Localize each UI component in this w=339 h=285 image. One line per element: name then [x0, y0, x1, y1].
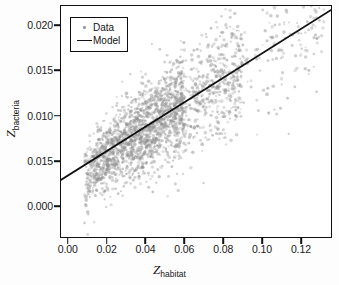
scatter-point [133, 186, 136, 189]
scatter-point [212, 56, 215, 59]
scatter-point [189, 94, 191, 96]
scatter-point [153, 111, 156, 114]
legend-entry-model[interactable]: Model [76, 34, 122, 47]
scatter-point [110, 163, 112, 165]
scatter-point [231, 56, 233, 58]
scatter-point [213, 64, 216, 67]
scatter-point [211, 110, 213, 112]
scatter-point [203, 105, 205, 107]
scatter-point [280, 77, 284, 81]
x-axis-tick-mark [67, 238, 69, 244]
scatter-point [214, 87, 217, 90]
scatter-point [121, 154, 123, 156]
scatter-point [141, 119, 145, 123]
scatter-point [105, 158, 108, 161]
scatter-point [193, 91, 195, 93]
scatter-point [164, 81, 168, 85]
scatter-point [322, 20, 325, 23]
scatter-point [197, 118, 199, 120]
scatter-point [166, 109, 168, 111]
chart-legend[interactable]: Data Model [70, 17, 128, 52]
scatter-point [142, 154, 145, 157]
scatter-point [101, 171, 104, 174]
scatter-point [195, 77, 199, 81]
scatter-point [283, 22, 285, 24]
scatter-point [259, 69, 261, 71]
scatter-point [234, 119, 236, 121]
scatter-point [235, 133, 239, 137]
scatter-point [156, 100, 158, 102]
scatter-point [115, 147, 117, 149]
scatter-point [174, 182, 177, 185]
scatter-point [161, 87, 163, 89]
scatter-point [293, 69, 297, 73]
scatter-point [122, 157, 125, 160]
scatter-point [147, 79, 151, 83]
scatter-point [93, 182, 95, 184]
scatter-point [147, 156, 149, 158]
scatter-point [165, 128, 168, 131]
scatter-point [102, 190, 105, 193]
scatter-point [111, 187, 114, 190]
scatter-point [103, 135, 106, 138]
scatter-point [266, 59, 269, 62]
y-axis-tick-mark [54, 24, 60, 26]
scatter-point [193, 78, 195, 80]
scatter-point [150, 153, 152, 155]
scatter-point [165, 141, 167, 143]
scatter-point [182, 107, 184, 109]
scatter-point [83, 222, 86, 225]
scatter-point [153, 145, 156, 148]
scatter-point [86, 210, 90, 214]
scatter-point [229, 138, 232, 141]
scatter-point [234, 100, 237, 103]
scatter-point [222, 57, 225, 60]
scatter-point [128, 169, 131, 172]
y-axis-title-variable: Z [3, 130, 18, 137]
scatter-point [165, 134, 167, 136]
scatter-point [103, 198, 105, 200]
scatter-point [173, 99, 176, 102]
scatter-point [178, 65, 181, 68]
scatter-point [224, 132, 226, 134]
scatter-point [197, 70, 200, 73]
scatter-point [296, 22, 298, 24]
scatter-point [243, 31, 246, 34]
scatter-point [156, 105, 159, 108]
scatter-point [231, 92, 234, 95]
y-axis-tick-label: 0.010 [27, 110, 53, 122]
scatter-point [117, 109, 120, 112]
scatter-point [183, 97, 185, 99]
scatter-point [256, 134, 258, 136]
scatter-point [116, 102, 118, 104]
scatter-chart-figure: 0.0000.0150.0100.0150.020 Data Model Zha… [0, 0, 339, 285]
scatter-point [229, 117, 231, 119]
scatter-point [312, 36, 315, 39]
scatter-point [213, 70, 216, 73]
legend-entry-data[interactable]: Data [76, 21, 122, 34]
scatter-point [219, 62, 221, 64]
scatter-point [129, 182, 131, 184]
scatter-point [158, 80, 160, 82]
scatter-point [140, 160, 143, 163]
scatter-point [185, 59, 188, 61]
scatter-point [178, 158, 180, 160]
scatter-point [224, 23, 228, 27]
scatter-point [125, 95, 127, 97]
scatter-point [107, 140, 110, 143]
scatter-point [86, 233, 89, 236]
scatter-point [225, 59, 228, 62]
scatter-point [274, 23, 277, 26]
x-axis-tick-label: 0.04 [135, 243, 155, 255]
scatter-point [175, 103, 177, 105]
scatter-point [282, 30, 286, 34]
scatter-point [140, 135, 143, 138]
scatter-point [167, 175, 170, 178]
scatter-point [165, 101, 169, 105]
scatter-point [125, 92, 129, 96]
scatter-point [224, 136, 227, 139]
scatter-point [137, 172, 139, 174]
scatter-point [125, 150, 127, 152]
scatter-point [105, 168, 108, 171]
scatter-point [223, 64, 225, 66]
